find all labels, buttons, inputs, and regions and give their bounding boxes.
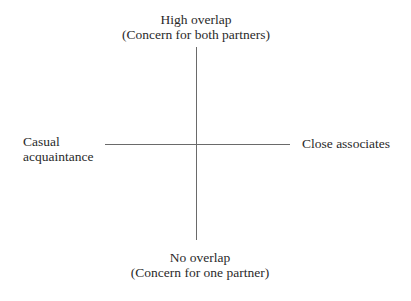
bottom-label: No overlap (Concern for one partner) [100,250,300,280]
left-label-line-2: acquaintance [23,149,113,164]
right-label-line-1: Close associates [302,136,411,151]
bottom-label-line-2: (Concern for one partner) [100,265,300,280]
bottom-label-line-1: No overlap [100,250,300,265]
right-label: Close associates [302,136,411,151]
top-label: High overlap (Concern for both partners) [96,12,296,42]
horizontal-axis-line [105,144,290,145]
left-label-line-1: Casual [23,134,113,149]
top-label-line-1: High overlap [96,12,296,27]
left-label: Casual acquaintance [23,134,113,164]
top-label-line-2: (Concern for both partners) [96,27,296,42]
